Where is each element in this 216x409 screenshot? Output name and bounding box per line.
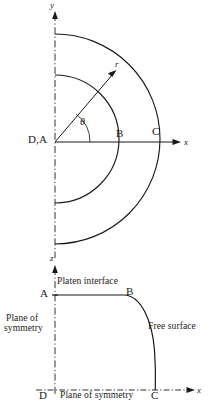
- figure-root: y D,A B C x r θ z Platen interface A B P…: [0, 0, 216, 409]
- top-y-axis-label: y: [50, 1, 54, 10]
- radius-line: [55, 74, 113, 142]
- point-label-c-top: C: [152, 126, 159, 138]
- top-y-axis-arrowhead: [52, 11, 58, 19]
- top-y-axis: [52, 11, 58, 258]
- bottom-x-axis-arrowhead: [187, 387, 196, 393]
- point-label-d: D: [39, 390, 47, 402]
- radius-vector: [55, 70, 117, 142]
- top-x-axis: [55, 139, 181, 145]
- top-x-axis-arrowhead: [173, 139, 182, 145]
- free-surface-curve: [125, 295, 155, 390]
- platen-interface-label: Platen interface: [57, 277, 118, 287]
- outer-arc: [55, 34, 160, 244]
- point-label-b: B: [126, 286, 133, 298]
- point-label-a: A: [40, 288, 48, 300]
- figure-drawing: [0, 0, 216, 409]
- bottom-z-axis-label: z: [50, 254, 54, 263]
- bottom-z-axis-arrowhead: [52, 265, 58, 273]
- point-label-da: D,A: [28, 134, 47, 146]
- inner-arc: [55, 75, 119, 203]
- radius-label: r: [115, 60, 119, 69]
- free-surface-label: Free surface: [148, 322, 196, 332]
- bottom-x-axis-label: x: [197, 386, 201, 395]
- point-label-b-top: B: [116, 128, 123, 140]
- point-label-c: C: [151, 390, 158, 402]
- radius-arrowhead: [108, 70, 117, 77]
- plane-of-symmetry-bottom-label: Plane of symmetry: [60, 391, 133, 401]
- plane-of-symmetry-left-line2: symmetry: [4, 324, 43, 334]
- top-x-axis-label: x: [184, 138, 188, 147]
- theta-label: θ: [80, 117, 85, 128]
